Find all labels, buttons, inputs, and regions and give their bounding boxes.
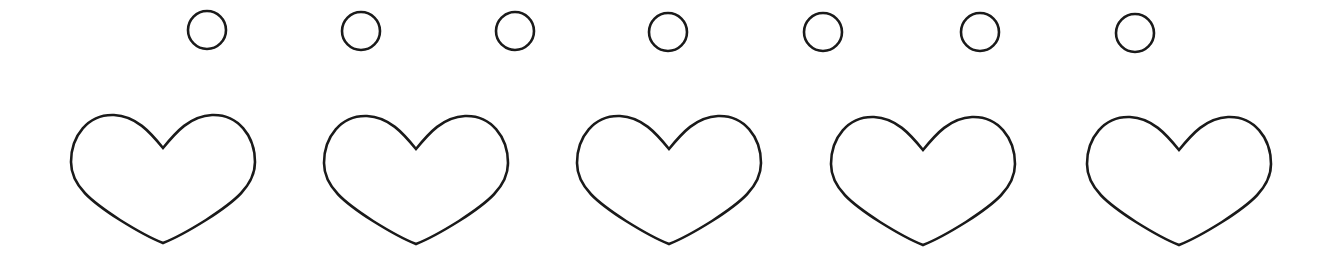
hearts-row [71,115,1271,245]
circle-3-icon [496,12,534,50]
heart-outline [71,115,255,243]
circle-6-icon [961,13,999,51]
circle-7-icon [1116,14,1154,52]
heart-4-icon [831,117,1015,245]
circles-row [188,11,1154,52]
circle-4-icon [649,13,687,51]
circle-1-icon [188,11,226,49]
shapes-canvas [0,0,1331,261]
heart-3-icon [577,116,761,244]
circle-2-icon [342,12,380,50]
heart-5-icon [1087,117,1271,245]
heart-outline [324,116,508,244]
heart-outline [1087,117,1271,245]
heart-outline [577,116,761,244]
circle-5-icon [804,13,842,51]
heart-1-icon [71,115,255,243]
heart-outline [831,117,1015,245]
heart-2-icon [324,116,508,244]
